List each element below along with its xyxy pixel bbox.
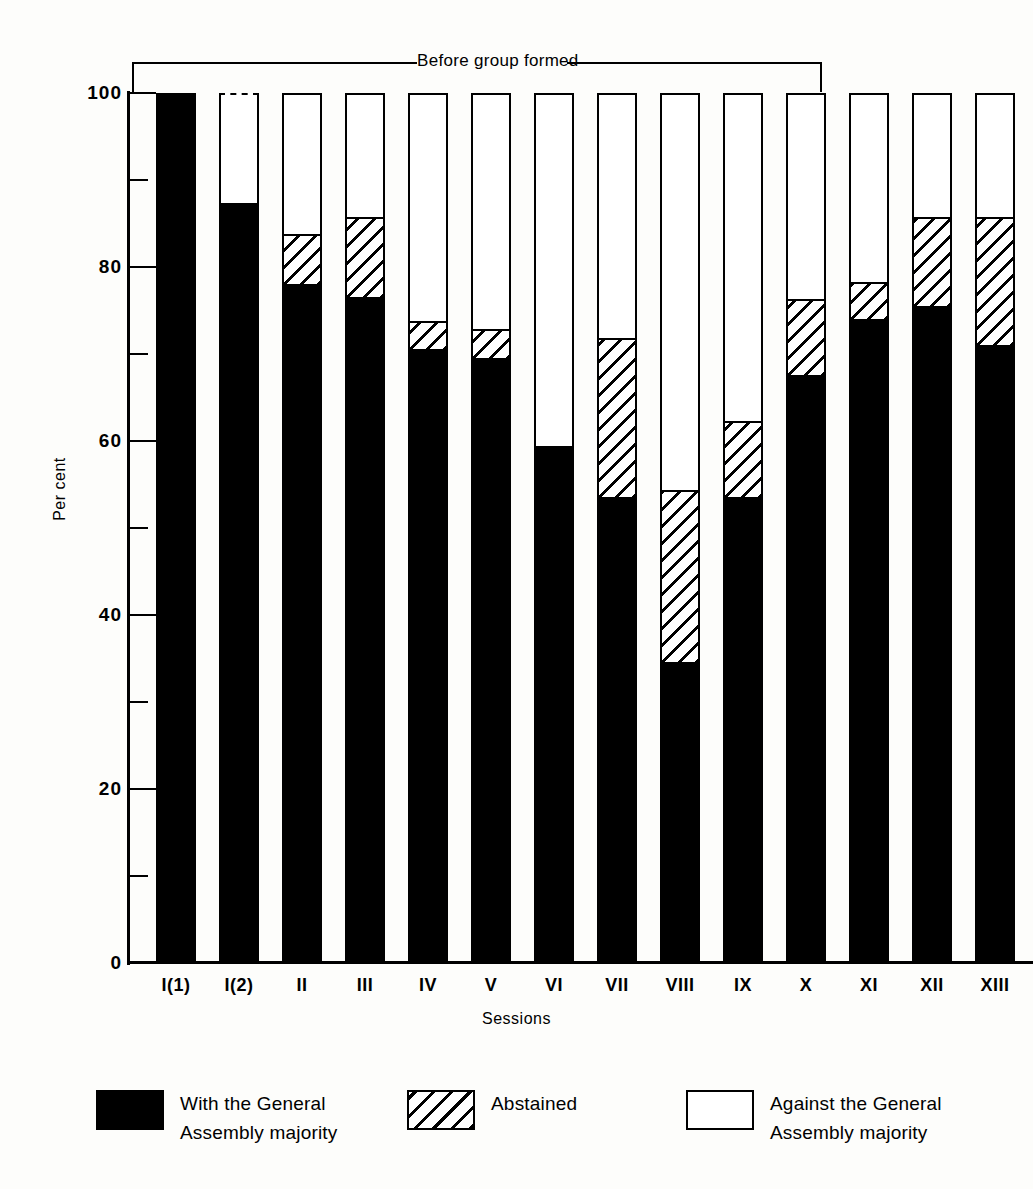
segment-with-majority xyxy=(599,497,635,961)
bar-X[interactable] xyxy=(786,93,826,963)
chart-legend: With the GeneralAssembly majorityAbstain… xyxy=(0,1090,1033,1180)
segment-against xyxy=(851,95,887,282)
segment-with-majority xyxy=(347,297,383,961)
legend-label-line1: Against the General xyxy=(770,1093,942,1114)
x-axis-title: Sessions xyxy=(0,1010,1033,1028)
segment-abstained xyxy=(914,217,950,308)
segment-against xyxy=(662,95,698,490)
bar-XI[interactable] xyxy=(849,93,889,963)
bar-I1[interactable] xyxy=(156,93,196,963)
segment-against xyxy=(914,95,950,217)
segment-against xyxy=(788,95,824,299)
x-tick-label-V: V xyxy=(456,975,526,996)
y-tick-label: 100 xyxy=(62,83,122,102)
x-tick-label-IX: IX xyxy=(708,975,778,996)
segment-abstained xyxy=(851,282,887,321)
bar-VIII[interactable] xyxy=(660,93,700,963)
bar-V[interactable] xyxy=(471,93,511,963)
segment-against xyxy=(977,95,1013,217)
legend-label-with: With the GeneralAssembly majority xyxy=(180,1090,338,1147)
x-tick-label-VIII: VIII xyxy=(645,975,715,996)
x-tick-label-XIII: XIII xyxy=(960,975,1030,996)
segment-abstained xyxy=(788,299,824,377)
segment-with-majority xyxy=(284,284,320,961)
x-tick-label-XI: XI xyxy=(834,975,904,996)
bracket-top-right xyxy=(560,62,822,64)
segment-with-majority xyxy=(662,662,698,961)
segment-against xyxy=(284,95,320,234)
segment-with-majority xyxy=(536,446,572,961)
segment-with-majority xyxy=(725,497,761,961)
x-tick-label-IV: IV xyxy=(393,975,463,996)
segment-against xyxy=(536,95,572,446)
legend-item-abstained[interactable]: Abstained xyxy=(407,1090,577,1130)
legend-label-line1: Abstained xyxy=(491,1093,577,1114)
plot-area xyxy=(128,93,1033,963)
x-tick-label-I2: I(2) xyxy=(204,975,274,996)
segment-abstained xyxy=(284,234,320,286)
y-tick-label: 60 xyxy=(62,431,122,450)
segment-against xyxy=(410,95,446,321)
bracket-label: Before group formed xyxy=(417,51,567,71)
bar-IX[interactable] xyxy=(723,93,763,963)
bar-XIII[interactable] xyxy=(975,93,1015,963)
chart-page: Before group formed 020406080100 Per cen… xyxy=(0,0,1033,1189)
segment-abstained xyxy=(662,490,698,664)
legend-label-line1: With the General xyxy=(180,1093,326,1114)
legend-label-line2: Assembly majority xyxy=(180,1119,338,1148)
segment-with-majority xyxy=(473,358,509,961)
x-tick-label-II: II xyxy=(267,975,337,996)
segment-with-majority xyxy=(410,349,446,961)
y-tick-label: 40 xyxy=(62,605,122,624)
legend-item-against[interactable]: Against the GeneralAssembly majority xyxy=(686,1090,942,1147)
legend-item-with[interactable]: With the GeneralAssembly majority xyxy=(96,1090,338,1147)
segment-against xyxy=(221,95,257,203)
segment-against xyxy=(599,95,635,338)
bar-I2[interactable] xyxy=(219,93,259,963)
segment-with-majority xyxy=(851,319,887,961)
bar-II[interactable] xyxy=(282,93,322,963)
before-group-formed-bracket: Before group formed xyxy=(132,62,822,92)
x-tick-label-III: III xyxy=(330,975,400,996)
legend-swatch-with xyxy=(96,1090,164,1130)
y-axis-title: Per cent xyxy=(51,419,69,559)
legend-swatch-against xyxy=(686,1090,754,1130)
bar-III[interactable] xyxy=(345,93,385,963)
segment-abstained xyxy=(410,321,446,351)
bar-IV[interactable] xyxy=(408,93,448,963)
y-tick-label: 20 xyxy=(62,779,122,798)
y-tick-label: 80 xyxy=(62,257,122,276)
segment-abstained xyxy=(977,217,1013,347)
x-tick-label-VI: VI xyxy=(519,975,589,996)
segment-with-majority xyxy=(977,345,1013,961)
segment-against xyxy=(473,95,509,329)
bar-VI[interactable] xyxy=(534,93,574,963)
bar-XII[interactable] xyxy=(912,93,952,963)
legend-swatch-abstained xyxy=(407,1090,475,1130)
segment-with-majority xyxy=(914,306,950,961)
legend-label-abstained: Abstained xyxy=(491,1090,577,1119)
segment-against xyxy=(347,95,383,217)
legend-label-line2: Assembly majority xyxy=(770,1119,942,1148)
x-tick-label-X: X xyxy=(771,975,841,996)
segment-with-majority xyxy=(221,203,257,961)
bracket-left-stem xyxy=(132,62,134,92)
segment-abstained xyxy=(473,329,509,359)
segment-abstained xyxy=(725,421,761,499)
y-tick-label: 0 xyxy=(62,953,122,972)
bar-VII[interactable] xyxy=(597,93,637,963)
bracket-right-stem xyxy=(820,62,822,92)
segment-with-majority xyxy=(788,375,824,961)
x-tick-label-VII: VII xyxy=(582,975,652,996)
segment-abstained xyxy=(599,338,635,499)
segment-against xyxy=(725,95,761,421)
legend-label-against: Against the GeneralAssembly majority xyxy=(770,1090,942,1147)
x-tick-label-XII: XII xyxy=(897,975,967,996)
x-tick-label-I1: I(1) xyxy=(141,975,211,996)
segment-with-majority xyxy=(158,95,194,961)
bracket-top-left xyxy=(132,62,422,64)
segment-abstained xyxy=(347,217,383,299)
